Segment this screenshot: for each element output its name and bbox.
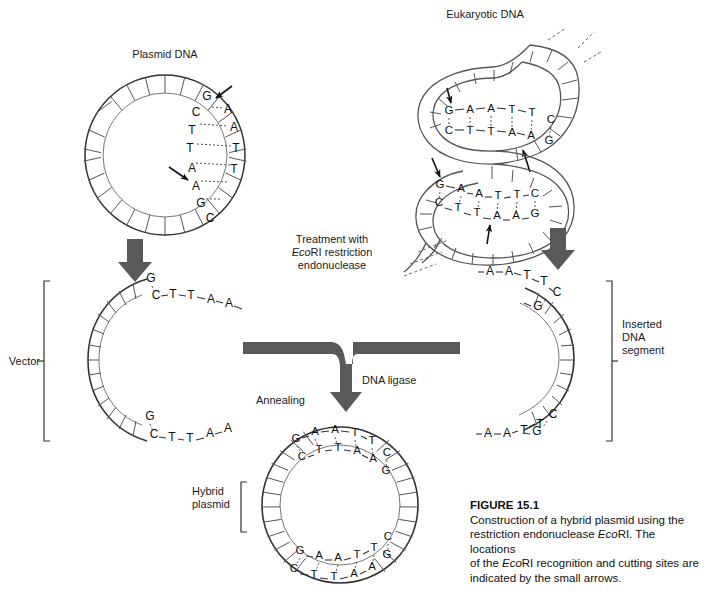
caption-line-1: Construction of a hybrid plasmid using t…	[470, 514, 684, 526]
svg-text:G: G	[296, 544, 305, 556]
insert-bracket	[606, 281, 612, 441]
inserted-dna-segment-label: Inserted DNA segment	[622, 318, 702, 357]
svg-text:T: T	[186, 141, 194, 155]
svg-text:T: T	[368, 434, 375, 446]
svg-text:T: T	[370, 541, 377, 553]
svg-text:A: A	[486, 264, 494, 278]
hybrid-plasmid-group: G A A T T C C T T A A G	[241, 423, 418, 583]
cut-site-arrow-euk-top-left	[447, 88, 451, 103]
svg-text:G: G	[196, 196, 205, 210]
plasmid-inner-circle	[103, 93, 227, 217]
euk-lower-tail-dashes	[404, 240, 448, 276]
svg-text:A: A	[230, 120, 238, 134]
svg-text:A: A	[457, 182, 465, 194]
svg-text:C: C	[192, 105, 201, 119]
svg-text:A: A	[505, 264, 513, 278]
svg-text:T: T	[232, 141, 240, 155]
treatment-label: Treatment with EcoRI restriction endonuc…	[262, 233, 402, 272]
svg-text:A: A	[475, 187, 483, 199]
plasmid-dna-label: Plasmid DNA	[105, 48, 225, 61]
svg-text:G: G	[146, 271, 155, 285]
svg-text:T: T	[187, 288, 195, 302]
svg-text:T: T	[520, 423, 528, 437]
inserted-line-3: segment	[622, 344, 664, 356]
svg-text:C: C	[549, 407, 558, 421]
svg-text:T: T	[186, 431, 194, 445]
treatment-line-1: Treatment with	[296, 233, 368, 245]
svg-text:T: T	[473, 206, 480, 218]
svg-text:A: A	[331, 423, 339, 435]
svg-text:G: G	[533, 299, 542, 313]
svg-text:T: T	[310, 568, 317, 580]
cut-site-arrow-euk-bottom-left	[432, 158, 440, 177]
figure-number: FIGURE 15.1	[470, 499, 539, 511]
euk-hbonds-2	[439, 192, 535, 212]
svg-text:C: C	[383, 446, 391, 458]
svg-text:T: T	[528, 106, 535, 118]
cut-site-arrow-plasmid-bottom	[169, 167, 188, 180]
insert-sticky-bottom: A A T T C G	[484, 407, 558, 440]
cut-site-arrow-euk-bottom-right	[487, 225, 490, 244]
svg-text:A: A	[487, 102, 495, 114]
plasmid-bases: G C T T A A G C A A T T	[186, 89, 240, 225]
caption-eco-italic-1: Eco	[598, 528, 618, 540]
treatment-eco-italic: Eco	[292, 246, 311, 258]
hybrid-line-1: Hybrid	[192, 485, 224, 497]
eukaryotic-dna-group: G A A T T C C T T A A G	[404, 28, 601, 276]
svg-text:G: G	[292, 432, 301, 444]
vector-inner-arc	[99, 295, 142, 425]
vector-label: Vector	[0, 355, 40, 368]
hybrid-line-2: plasmid	[192, 498, 230, 510]
vector-rungs	[88, 284, 136, 436]
dna-ligase-label: DNA ligase	[362, 374, 416, 387]
svg-text:T: T	[454, 201, 461, 213]
vector-sticky-bottom: G C T T A A	[145, 409, 232, 445]
figure-caption: FIGURE 15.1 Construction of a hybrid pla…	[470, 498, 702, 585]
svg-text:A: A	[311, 425, 319, 437]
vector-sticky-top: G C T T A A	[146, 271, 233, 310]
svg-text:A: A	[334, 551, 342, 563]
svg-text:T: T	[540, 274, 548, 288]
svg-text:A: A	[508, 126, 516, 138]
euk-hbonds-1	[449, 116, 551, 137]
svg-text:A: A	[484, 426, 492, 440]
svg-text:T: T	[523, 268, 531, 282]
svg-text:G: G	[532, 424, 541, 438]
svg-text:C: C	[152, 288, 161, 302]
svg-text:T: T	[351, 426, 358, 438]
plasmid-hbonds	[196, 107, 231, 199]
euk-loop-lower-left-inner	[433, 183, 494, 258]
svg-text:G: G	[445, 104, 454, 116]
svg-text:C: C	[547, 113, 555, 125]
euk-loop-upper-left-outer	[418, 67, 495, 164]
svg-text:G: G	[145, 409, 154, 423]
vector-group: G C T T A A G C T T A A	[38, 271, 242, 445]
svg-text:G: G	[383, 548, 392, 560]
euk-tail-b	[494, 62, 522, 78]
svg-text:A: A	[188, 161, 196, 175]
svg-text:T: T	[188, 123, 196, 137]
svg-text:A: A	[315, 549, 323, 561]
svg-text:T: T	[330, 570, 337, 582]
svg-text:C: C	[531, 187, 539, 199]
svg-text:A: A	[224, 102, 232, 116]
plasmid-outer-circle	[85, 75, 245, 235]
treatment-line-3: endonuclease	[298, 259, 367, 271]
caption-line-3-pre: of the	[470, 557, 502, 569]
vector-bracket	[44, 281, 50, 441]
svg-text:A: A	[192, 179, 200, 193]
svg-text:A: A	[206, 426, 214, 440]
svg-text:C: C	[290, 562, 298, 574]
svg-text:T: T	[508, 103, 515, 115]
svg-text:T: T	[230, 162, 238, 176]
caption-line-2-pre: restriction endonuclease	[470, 528, 598, 540]
caption-ri-2: RI	[522, 557, 534, 569]
svg-text:C: C	[384, 530, 392, 542]
svg-text:A: A	[466, 103, 474, 115]
euk-loop-upper-left-inner	[433, 78, 496, 151]
caption-line-4: indicated by the small arrows.	[470, 572, 621, 584]
svg-text:G: G	[436, 178, 445, 190]
annealing-label: Annealing	[256, 394, 305, 407]
svg-text:T: T	[494, 189, 501, 201]
svg-text:G: G	[202, 89, 211, 103]
